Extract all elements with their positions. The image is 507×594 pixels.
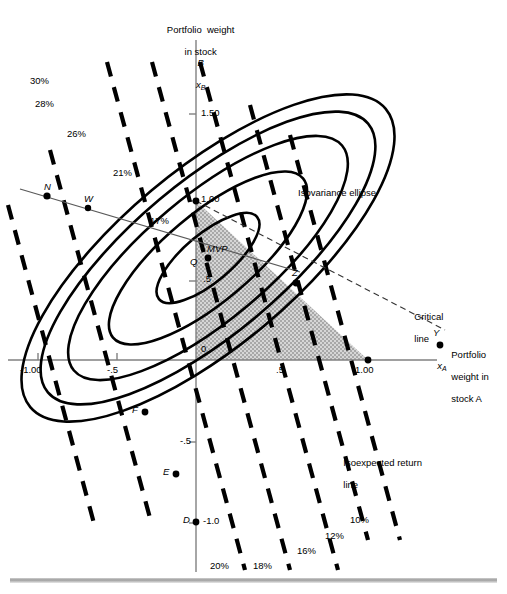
y-tick--1.0: -1.0 (203, 516, 219, 527)
isoexpected-label-18: 18% (253, 561, 272, 572)
point-N (43, 192, 50, 199)
x-tick-1.00: 1.00 (355, 365, 374, 376)
y-axis-title-line2: in stock (185, 46, 217, 57)
point-label-W: W (84, 194, 93, 205)
point-D (193, 519, 200, 526)
isoexpected-label-10: 10% (350, 515, 369, 526)
isoexpected-label-12: 12% (325, 531, 344, 542)
point-label-MVP: MVP (207, 244, 228, 255)
y-axis-title-stock: B (197, 57, 203, 68)
x-axis-symbol: xA (432, 350, 447, 373)
point-label-N: N (44, 182, 51, 193)
ellipse-label-26: 26% (67, 129, 86, 140)
y-tick-0: 0 (201, 344, 206, 355)
isoexpected-label-20: 20% (210, 561, 229, 572)
point-label-D: D (183, 515, 190, 526)
critical-line-annotation-line2: line (414, 333, 429, 344)
point-label-Q: Q (190, 257, 197, 268)
point-label-Y: Y (433, 328, 439, 339)
isovariance-ellipse-annotation: Isovariance ellipse (298, 188, 376, 199)
y-axis-title: Portfolio weight in stock B xB (128, 14, 268, 92)
ellipse-label-21: 21% (113, 168, 132, 179)
critical-line-annotation-line1: Critical (414, 311, 443, 322)
ellipse-label-30: 30% (30, 76, 49, 87)
x-axis-title-line1: Portfolio (451, 349, 486, 360)
footer-rule (10, 578, 497, 583)
point-MVP (205, 255, 212, 262)
x-tick-0.5: .5 (276, 365, 284, 376)
x-axis-title: Portfolio weight in stock A (446, 339, 504, 405)
y-tick--0.5: -.5 (180, 436, 191, 447)
y-axis-symbol-sub: B (201, 84, 206, 91)
point-origin-x1 (365, 357, 372, 364)
point-E (173, 471, 180, 478)
isoexpected-annotation-line2: line (343, 479, 358, 490)
point-label-Z: Z (292, 268, 298, 279)
y-tick-0.5: .5 (203, 274, 211, 285)
point-W (85, 205, 91, 211)
x-axis-title-line3: stock A (451, 393, 482, 404)
x-tick--0.5: -.5 (107, 365, 118, 376)
x-axis-title-line2: weight in (451, 371, 489, 382)
point-origin-y1 (193, 198, 200, 205)
y-axis-title-line1: Portfolio weight (167, 24, 235, 35)
isoexpected-label-16: 16% (297, 546, 316, 557)
isoexpected-return-annotation: Isoexpected return line (338, 447, 422, 491)
x-tick--1.00: -1.00 (20, 365, 42, 376)
y-tick-1.00: 1.00 (201, 194, 220, 205)
isoexpected-annotation-line1: Isoexpected return (343, 457, 422, 468)
ellipse-label-17: 17% (150, 216, 169, 227)
point-label-E: E (163, 467, 169, 478)
y-tick-1.50: 1.50 (201, 108, 220, 119)
point-Z (293, 280, 300, 287)
point-F (142, 409, 149, 416)
point-label-F: F (132, 405, 138, 416)
ellipse-label-28: 28% (35, 99, 54, 110)
